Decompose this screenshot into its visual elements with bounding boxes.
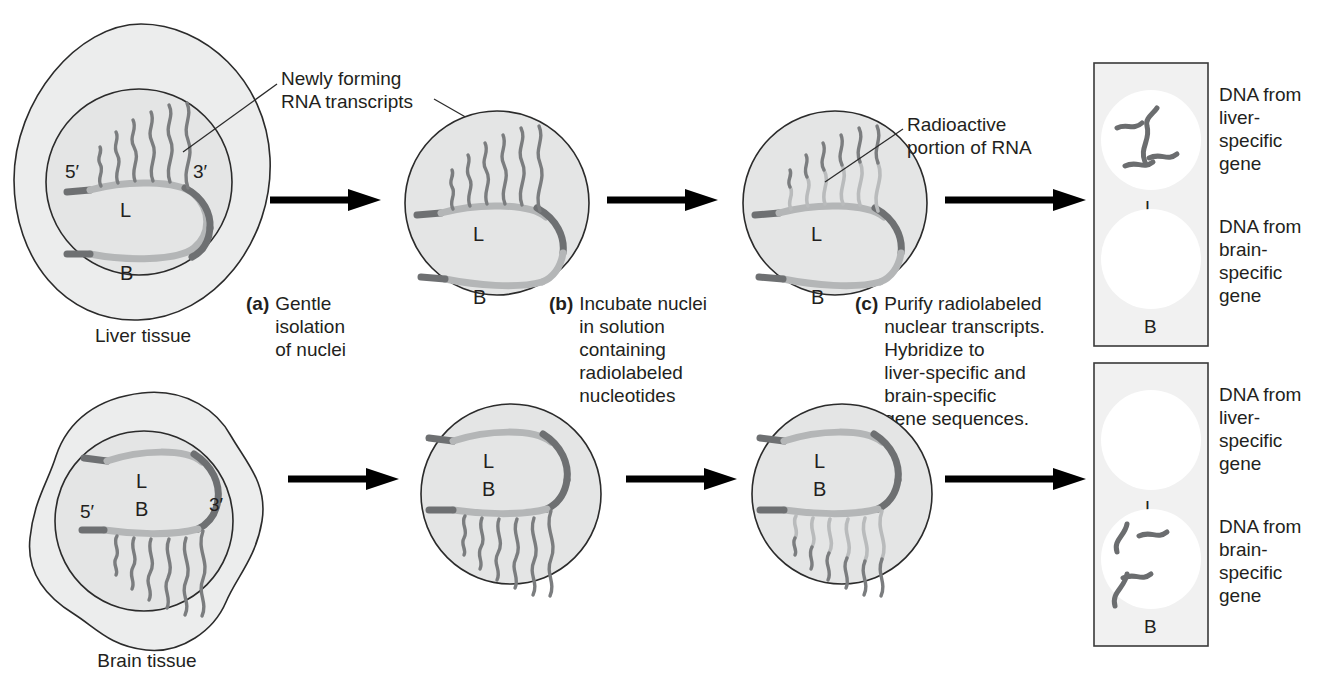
blot-right-label-brain-gene-bottom: DNA from brain- specific gene [1219, 515, 1301, 607]
brain-isolated-nucleus: L B [413, 394, 609, 594]
blot-spot-B [1101, 209, 1201, 309]
step-caption-b: (b) Incubate nuclei in solution containi… [549, 292, 707, 407]
blot-right-label-brain-gene-top: DNA from brain- specific gene [1219, 215, 1301, 307]
brain-three-prime-label: 3′ [209, 494, 224, 515]
brain-five-prime-label: 5′ [80, 501, 95, 522]
blot-panel-brain: L B [1093, 362, 1209, 647]
blot-spot-L [1101, 390, 1201, 490]
arrow-step-a-bottom [286, 465, 402, 495]
gene-L-label: L [814, 450, 825, 472]
step-a-text: Gentle isolation of nuclei [275, 292, 346, 361]
brain-tissue-label: Brain tissue [22, 650, 272, 672]
blot-panel-liver: L B [1093, 62, 1209, 347]
blot-label-B: B [1144, 616, 1157, 637]
gene-B-label: B [813, 478, 826, 500]
gene-L-label: L [483, 450, 494, 472]
arrow-step-c-top [943, 186, 1089, 216]
arrow-step-b-bottom [624, 465, 740, 495]
brain-tissue-cell: 5′ 3′ L B [22, 388, 272, 658]
step-b-text: Incubate nuclei in solution containing r… [579, 292, 707, 407]
step-b-letter: (b) [549, 292, 573, 407]
brain-gene-B-label: B [135, 498, 148, 520]
arrow-step-c-bottom [943, 465, 1089, 495]
blot-spot-L [1101, 90, 1201, 190]
blot-right-label-liver-gene-bottom: DNA from liver- specific gene [1219, 383, 1301, 475]
step-a-letter: (a) [246, 292, 269, 361]
step-caption-a: (a) Gentle isolation of nuclei [246, 292, 346, 361]
brain-gene-L-label: L [136, 470, 147, 492]
gene-B-label: B [482, 478, 495, 500]
blot-label-B: B [1144, 316, 1157, 337]
brain-labeled-nucleus: L B [744, 394, 940, 594]
blot-right-label-liver-gene-top: DNA from liver- specific gene [1219, 83, 1301, 175]
